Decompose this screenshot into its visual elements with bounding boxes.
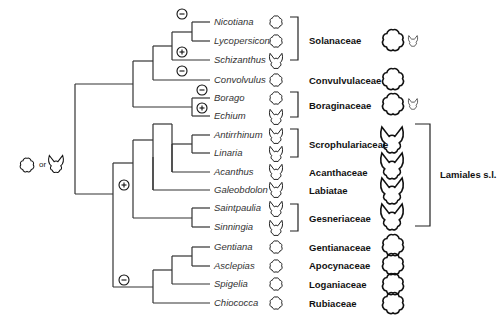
actinomorphic-corolla-icon <box>270 260 282 272</box>
tree-branches <box>75 22 210 303</box>
taxon-label: Antirrhinum <box>214 130 263 140</box>
family-label: Apocynaceae <box>309 261 370 271</box>
actinomorphic-corolla-icon <box>383 273 404 294</box>
actinomorphic-corolla-icon <box>270 278 282 290</box>
minus-marker-borago <box>197 85 207 95</box>
plus-marker-echium <box>197 103 207 113</box>
plus-marker-schizanthus <box>177 47 187 57</box>
zygomorphic-corolla-icon <box>269 146 282 161</box>
bracket-solanaceae <box>290 17 298 60</box>
actinomorphic-corolla-icon <box>383 253 404 274</box>
root-or-label: or <box>39 161 46 169</box>
taxon-label: Chiococca <box>214 298 258 308</box>
phylogenetic-tree-diagram: or Nicotiana Lycopersicon Schizanthus Co… <box>0 0 497 320</box>
zygomorphic-corolla-icon <box>269 53 282 68</box>
taxon-label: Acanthus <box>214 167 254 177</box>
taxon-label: Borago <box>214 93 245 103</box>
zygomorphic-corolla-icon <box>408 36 417 47</box>
family-label: Gentianaceae <box>309 243 371 253</box>
zygomorphic-corolla-icon <box>49 155 64 172</box>
family-label: Gesneriaceae <box>309 214 371 224</box>
plus-marker-lamiales <box>119 180 129 190</box>
minus-marker-convolvulus <box>177 66 187 76</box>
taxon-label: Galeobdolon <box>214 185 268 195</box>
actinomorphic-corolla-icon <box>383 29 404 50</box>
tree-svg <box>0 0 497 320</box>
taxon-label: Spigelia <box>214 279 248 289</box>
zygomorphic-corolla-icon <box>269 182 282 197</box>
zygomorphic-corolla-icon <box>269 109 282 124</box>
family-label: Loganiaceae <box>309 280 367 290</box>
family-label: Scrophulariaceae <box>309 140 388 150</box>
state-markers <box>119 9 207 285</box>
taxon-label: Gentiana <box>214 242 253 252</box>
family-label: Solanaceae <box>309 36 361 46</box>
family-label: Acanthaceae <box>309 168 368 178</box>
actinomorphic-corolla-icon <box>383 292 404 313</box>
family-label: Boraginaceae <box>309 101 371 111</box>
actinomorphic-corolla-icon <box>270 241 282 253</box>
minus-marker-gentianales <box>119 275 129 285</box>
zygomorphic-corolla-icon <box>269 220 282 235</box>
taxon-label: Nicotiana <box>214 17 254 27</box>
zygomorphic-corolla-icon <box>269 201 282 216</box>
zygomorphic-corolla-icon <box>381 153 403 179</box>
actinomorphic-corolla-icon <box>383 68 404 89</box>
actinomorphic-corolla-icon <box>270 16 282 28</box>
order-label-lamiales: Lamiales s.l. <box>440 170 497 180</box>
bracket-scrophulariaceae <box>290 129 298 157</box>
minus-marker-solanaceae-actino <box>177 9 187 19</box>
zygomorphic-corolla-icon <box>269 128 282 143</box>
taxon-label: Sinningia <box>214 222 253 232</box>
taxon-corolla-icons <box>269 16 282 309</box>
bracket-gesneriaceae <box>290 204 298 231</box>
zygomorphic-corolla-icon <box>381 204 403 230</box>
zygomorphic-corolla-icon <box>408 99 417 110</box>
taxon-label: Saintpaulia <box>214 203 261 213</box>
actinomorphic-corolla-icon <box>383 93 404 114</box>
zygomorphic-corolla-icon <box>269 164 282 179</box>
taxon-label: Asclepias <box>214 261 255 271</box>
taxon-label: Linaria <box>214 148 243 158</box>
taxon-label: Schizanthus <box>214 55 266 65</box>
taxon-label: Echium <box>214 111 246 121</box>
actinomorphic-corolla-icon <box>270 297 282 309</box>
family-label: Convulvulaceae <box>309 76 381 86</box>
zygomorphic-corolla-icon <box>381 178 403 204</box>
family-label: Rubiaceae <box>309 299 357 309</box>
bracket-boraginaceae <box>290 92 298 117</box>
actinomorphic-corolla-icon <box>20 158 34 172</box>
bracket-lamiales <box>415 124 430 226</box>
family-brackets <box>290 17 430 231</box>
family-label: Labiatae <box>309 186 348 196</box>
actinomorphic-corolla-icon <box>270 92 282 104</box>
actinomorphic-corolla-icon <box>383 234 404 255</box>
taxon-label: Convolvulus <box>214 75 266 85</box>
family-corolla-icons <box>381 29 418 313</box>
actinomorphic-corolla-icon <box>270 74 282 86</box>
actinomorphic-corolla-icon <box>270 35 282 47</box>
taxon-label: Lycopersicon <box>214 36 270 46</box>
